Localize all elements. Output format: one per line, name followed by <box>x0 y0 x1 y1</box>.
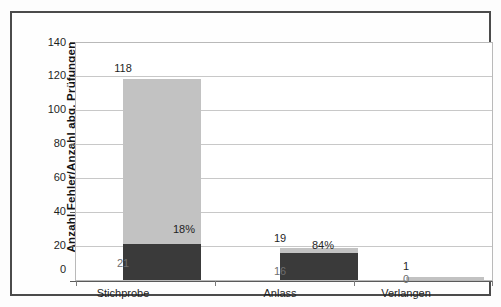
bar-total-label-anlass: 19 <box>240 233 320 244</box>
y-tick-label-100: 100 <box>20 104 66 115</box>
bar-total-label-stichprobe: 118 <box>83 63 163 74</box>
y-tick-label-40-text: 40 <box>26 206 66 217</box>
chart-page: Anzahl Fehler/Anzahl abg. Prüfungen 140 … <box>0 0 501 307</box>
figure-frame: Anzahl Fehler/Anzahl abg. Prüfungen 140 … <box>10 11 491 296</box>
y-tick-label-140: 140 <box>20 37 66 48</box>
bar-segment-upper-stichprobe[interactable] <box>123 79 201 244</box>
y-tick-label-120-text: 120 <box>26 70 66 81</box>
x-tick-mark-end <box>492 281 493 286</box>
y-tick-label-0-text: 0 <box>26 264 66 275</box>
bar-total-label-verlangen: 1 <box>366 261 446 272</box>
percent-annotation-stichprobe: 18% <box>173 224 195 235</box>
bar-inner-label-verlangen: 0 <box>366 274 446 285</box>
x-category-label-verlangen: Verlangen <box>365 287 447 299</box>
y-tick-label-80: 80 <box>20 138 66 149</box>
y-tick-label-60: 60 <box>20 172 66 183</box>
x-category-label-anlass: Anlass <box>239 287 321 299</box>
x-category-label-stichprobe: Stichprobe <box>82 287 164 299</box>
x-tick-mark-1 <box>215 281 216 286</box>
y-tick-label-120: 120 <box>20 70 66 81</box>
y-tick-label-60-text: 60 <box>26 172 66 183</box>
percent-annotation-anlass: 84% <box>312 240 334 251</box>
y-tick-label-140-text: 140 <box>26 37 66 48</box>
y-tick-label-0: 0 <box>20 264 66 275</box>
bar-inner-label-stichprobe: 21 <box>83 258 163 269</box>
y-tick-label-80-text: 80 <box>26 138 66 149</box>
plot-area <box>75 42 493 281</box>
x-tick-mark-2 <box>354 281 355 286</box>
y-tick-label-20: 20 <box>20 240 66 251</box>
bar-group-stichprobe[interactable] <box>123 41 201 280</box>
y-tick-label-20-text: 20 <box>26 240 66 251</box>
x-tick-mark-start <box>76 281 77 286</box>
bar-inner-label-anlass: 16 <box>240 266 320 277</box>
y-tick-label-100-text: 100 <box>26 104 66 115</box>
y-tick-label-40: 40 <box>20 206 66 217</box>
bar-stack-stichprobe[interactable] <box>123 79 201 280</box>
bar-group-verlangen[interactable] <box>406 41 484 280</box>
